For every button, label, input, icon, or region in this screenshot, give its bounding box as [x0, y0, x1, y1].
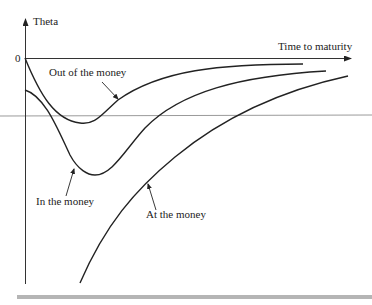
curve-at-the-money [80, 76, 348, 283]
curve-in-the-money [25, 71, 326, 175]
otm-pointer [102, 82, 118, 99]
bottom-bar [17, 295, 372, 299]
y-axis-label: Theta [33, 16, 58, 27]
atm-pointer [148, 184, 156, 210]
zero-tick-label: 0 [15, 53, 21, 64]
itm-pointer [66, 169, 74, 196]
otm-label: Out of the money [49, 67, 126, 78]
x-axis-label: Time to maturity [278, 41, 352, 52]
horizontal-rule [0, 115, 372, 116]
itm-label: In the money [36, 196, 94, 207]
atm-label: At the money [146, 209, 206, 220]
